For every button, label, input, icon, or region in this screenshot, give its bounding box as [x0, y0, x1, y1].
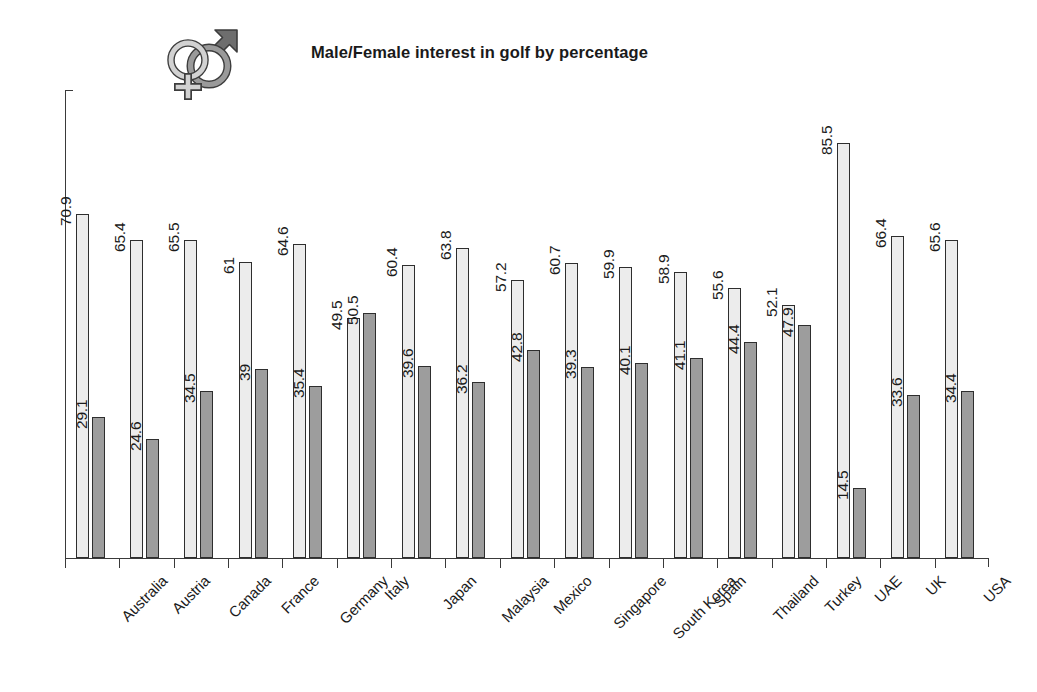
x-axis-label-uae: UAE: [871, 572, 905, 606]
bar-value-label: 58.9: [655, 255, 673, 284]
bar-value-label: 65.4: [111, 223, 129, 252]
bar-male-south-korea: [619, 267, 632, 558]
bar-value-label: 36.2: [453, 365, 471, 394]
x-axis-label-turkey: Turkey: [821, 572, 865, 616]
bar-value-label: 29.1: [73, 400, 91, 429]
x-axis-label-japan: Japan: [439, 572, 480, 613]
bar-female-thailand: [744, 342, 757, 558]
x-axis-tick: [119, 558, 120, 568]
x-axis-tick: [391, 558, 392, 568]
bar-value-label: 65.5: [165, 223, 183, 252]
bar-female-singapore: [581, 367, 594, 558]
bar-male-germany: [293, 244, 306, 558]
bar-female-australia: [92, 417, 105, 558]
x-axis-tick: [717, 558, 718, 568]
x-axis-label-usa: USA: [980, 572, 1014, 606]
bar-female-turkey: [798, 325, 811, 558]
bar-male-singapore: [565, 263, 578, 558]
bar-female-italy: [363, 313, 376, 558]
bar-value-label: 35.4: [290, 369, 308, 398]
bar-female-usa: [961, 391, 974, 558]
x-axis-tick: [174, 558, 175, 568]
x-axis-label-malaysia: Malaysia: [498, 572, 551, 625]
x-axis-label-canada: Canada: [225, 572, 274, 621]
bar-female-austria: [146, 439, 159, 558]
bar-value-label: 34.5: [181, 374, 199, 403]
bar-value-label: 50.5: [344, 296, 362, 325]
bar-value-label: 33.6: [888, 378, 906, 407]
x-axis-label-spain: Spain: [710, 572, 749, 611]
bar-female-france: [255, 369, 268, 558]
bar-female-south-korea: [635, 363, 648, 558]
x-axis-tick: [554, 558, 555, 568]
bar-value-label: 44.4: [725, 325, 743, 354]
x-axis-tick: [772, 558, 773, 568]
bar-male-japan: [402, 265, 415, 558]
bar-male-austria: [130, 240, 143, 558]
x-axis-tick: [609, 558, 610, 568]
bar-value-label: 61: [220, 257, 238, 274]
bar-value-label: 85.5: [818, 126, 836, 155]
x-axis-tick: [445, 558, 446, 568]
bar-value-label: 41.1: [671, 341, 689, 370]
x-axis-label-italy: Italy: [381, 572, 412, 603]
bar-value-label: 24.6: [127, 422, 145, 451]
x-axis-end-cap: [988, 558, 989, 567]
bar-female-canada: [200, 391, 213, 558]
bar-value-label: 65.6: [926, 223, 944, 252]
x-axis-label-mexico: Mexico: [550, 572, 595, 617]
bar-female-malaysia: [472, 382, 485, 558]
bar-male-turkey: [782, 305, 795, 558]
x-axis-tick: [935, 558, 936, 568]
x-axis-tick: [826, 558, 827, 568]
bar-male-italy: [347, 318, 360, 558]
bar-male-spain: [674, 272, 687, 558]
bar-male-malaysia: [456, 248, 469, 558]
y-axis-top-cap: [65, 90, 73, 91]
x-axis-label-germany: Germany: [336, 572, 391, 627]
x-axis-tick: [282, 558, 283, 568]
bar-value-label: 34.4: [942, 374, 960, 403]
x-axis-label-australia: Australia: [118, 572, 171, 625]
bar-value-label: 60.7: [546, 246, 564, 275]
bar-value-label: 60.4: [383, 248, 401, 277]
chart-page: Male/Female interest in golf by percenta…: [0, 0, 1037, 692]
x-axis-label-austria: Austria: [168, 572, 213, 617]
x-axis-label-singapore: Singapore: [610, 572, 670, 632]
bar-value-label: 66.4: [872, 219, 890, 248]
bar-value-label: 14.5: [834, 471, 852, 500]
x-axis-label-thailand: Thailand: [770, 572, 822, 624]
bar-male-france: [239, 262, 252, 558]
x-axis-tick: [880, 558, 881, 568]
bar-value-label: 39: [236, 364, 254, 381]
x-axis-tick: [65, 558, 66, 568]
bar-value-label: 42.8: [508, 333, 526, 362]
bar-value-label: 55.6: [709, 271, 727, 300]
x-axis-tick: [663, 558, 664, 568]
x-axis-label-france: France: [278, 572, 323, 617]
bar-female-germany: [309, 386, 322, 558]
bar-male-australia: [76, 214, 89, 558]
bar-value-label: 39.3: [562, 350, 580, 379]
bar-female-uk: [907, 395, 920, 558]
bar-value-label: 39.6: [399, 349, 417, 378]
x-axis-tick: [500, 558, 501, 568]
bar-value-label: 59.9: [600, 250, 618, 279]
bar-female-uae: [853, 488, 866, 558]
x-axis-line: [65, 558, 989, 559]
x-axis-tick: [228, 558, 229, 568]
bar-value-label: 64.6: [274, 227, 292, 256]
bar-value-label: 40.1: [616, 346, 634, 375]
y-axis-line: [65, 90, 66, 559]
x-axis-label-uk: UK: [922, 572, 949, 599]
bar-value-label: 63.8: [437, 231, 455, 260]
bar-female-japan: [418, 366, 431, 558]
bar-female-spain: [690, 358, 703, 558]
bar-female-mexico: [527, 350, 540, 558]
bar-value-label: 70.9: [57, 197, 75, 226]
bar-value-label: 47.9: [779, 308, 797, 337]
x-axis-tick: [337, 558, 338, 568]
bar-male-mexico: [511, 280, 524, 558]
bar-value-label: 57.2: [492, 263, 510, 292]
bar-chart-plot: 70.929.165.424.665.534.5613964.635.449.5…: [0, 0, 1037, 692]
